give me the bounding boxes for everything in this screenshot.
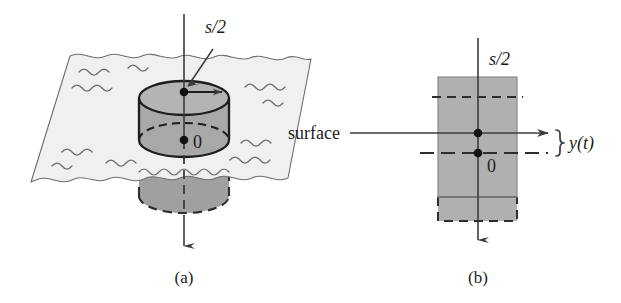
- label-s-half-a: s/2: [205, 17, 226, 37]
- panel-a-group: s/2 0 (a): [31, 14, 311, 287]
- label-origin-a: 0: [193, 132, 202, 152]
- top-cap-center-dot: [180, 88, 189, 97]
- origin-dot-b: [474, 149, 483, 158]
- label-surface: surface: [288, 123, 340, 143]
- caption-panel-a: (a): [175, 268, 194, 287]
- origin-dot-a: [180, 136, 189, 145]
- panel-b-group: s/2 0 surface y(t) (b): [288, 38, 594, 287]
- surface-point-dot-b: [474, 129, 483, 138]
- buoy-oscillation-figure: s/2 0 (a): [0, 0, 621, 303]
- displacement-brace: [556, 130, 564, 156]
- label-origin-b: 0: [487, 156, 496, 176]
- label-displacement-yt: y(t): [567, 133, 594, 154]
- caption-panel-b: (b): [468, 268, 488, 287]
- label-s-half-b: s/2: [489, 49, 510, 69]
